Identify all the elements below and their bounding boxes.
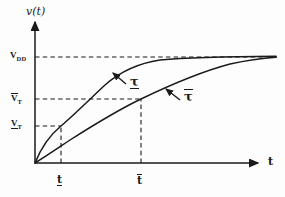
annotation-arrow-tau-over [166, 89, 180, 100]
y-tick-label-vt-over: VT [11, 93, 22, 105]
x-axis-title: t [268, 156, 273, 167]
x-tick-label-t-over: t [137, 174, 142, 186]
y-tick-vt-over-sub: T [18, 98, 23, 105]
curve-label-tau-under: τ [130, 75, 139, 89]
curve-label-tau-under-text: τ [130, 75, 139, 89]
y-tick-vdd-sub: DD [17, 55, 27, 62]
curve-tau-under [35, 56, 276, 163]
y-tick-label-vdd: VDD [10, 51, 26, 62]
x-tick-label-t-under: t [57, 174, 62, 186]
curve-tau-over [35, 57, 276, 163]
y-tick-vt-under-sub: T [18, 123, 23, 130]
y-axis-title: v(t) [26, 6, 45, 17]
plot-canvas [0, 0, 285, 197]
y-tick-label-vt-under: VT [11, 119, 22, 130]
x-tick-t-over-text: t [137, 174, 142, 186]
x-tick-t-under-text: t [57, 174, 62, 186]
curve-label-tau-over-text: τ [184, 89, 193, 103]
curve-label-tau-over: τ [184, 89, 193, 103]
figure-container: v(t) t VDD VT VT t t τ τ [0, 0, 285, 197]
